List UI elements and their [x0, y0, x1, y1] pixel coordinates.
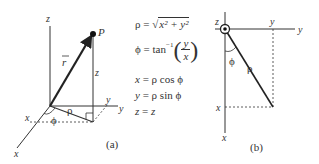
- eq-phi-fraction: yx: [181, 37, 190, 62]
- z-axis-label-b: z: [214, 16, 219, 27]
- diagram-b: z y x y x ρ ϕ (b): [214, 12, 303, 154]
- eq-x-rhs: ρ cos ϕ: [152, 73, 183, 85]
- eq-phi-numerator: y: [181, 37, 190, 50]
- y-projection-label-b: y: [269, 16, 275, 27]
- y-projection-label: y: [105, 94, 111, 105]
- x-axis-label: x: [13, 148, 19, 159]
- point-p: [90, 31, 96, 37]
- eq-y-rhs: ρ sin ϕ: [152, 89, 182, 101]
- rho-label: ρ: [67, 104, 73, 116]
- right-angle-marker: [86, 113, 93, 120]
- x-axis-label-b: x: [221, 132, 227, 143]
- eq-y-equals: =: [143, 89, 149, 101]
- phi-label: ϕ: [51, 114, 57, 126]
- eq-z-lhs: z: [135, 105, 139, 117]
- eq-rho-equals: =: [143, 18, 149, 30]
- r-vector: [50, 38, 90, 106]
- height-label: z: [94, 67, 99, 78]
- point-p-label: P: [97, 26, 105, 38]
- equation-phi: ϕ = tan−1(yx): [135, 37, 198, 62]
- eq-x-lhs: x: [135, 73, 140, 85]
- equation-y: y = ρ sin ϕ: [135, 90, 181, 101]
- eq-rho-lhs: ρ: [135, 18, 141, 30]
- eq-phi-denominator: x: [181, 50, 190, 62]
- eq-rho-rhs: x² + y²: [159, 18, 188, 30]
- equation-rho: ρ = √x² + y²: [135, 19, 189, 30]
- r-vector-label: r: [62, 56, 67, 68]
- z-axis-dot: [223, 27, 227, 31]
- eq-z-equals: =: [142, 105, 148, 117]
- equation-x: x = ρ cos ϕ: [135, 74, 183, 85]
- equation-z: z = z: [135, 106, 155, 117]
- eq-phi-func: tan: [153, 43, 166, 55]
- y-projection-line: [93, 104, 108, 122]
- left-paren: (: [173, 37, 181, 63]
- eq-z-rhs: z: [151, 105, 155, 117]
- caption-b: (b): [250, 141, 263, 154]
- x-projection-label-b: x: [215, 102, 221, 113]
- y-axis-label-b: y: [297, 24, 303, 35]
- z-axis-label: z: [45, 13, 50, 24]
- phi-arc-b: [225, 47, 236, 52]
- eq-y-lhs: y: [135, 89, 140, 101]
- eq-phi-lhs: ϕ: [135, 43, 141, 55]
- phi-label-b: ϕ: [229, 55, 235, 67]
- rho-label-b: ρ: [247, 62, 253, 74]
- eq-x-equals: =: [143, 73, 149, 85]
- x-projection-label: x: [24, 112, 30, 123]
- caption-a: (a): [106, 138, 119, 151]
- right-paren: ): [190, 37, 198, 63]
- diagram-a: z y x P r z ρ ϕ x y (a): [13, 13, 124, 159]
- eq-phi-equals: =: [144, 43, 150, 55]
- y-axis-label: y: [118, 103, 124, 114]
- x-axis: [17, 106, 50, 148]
